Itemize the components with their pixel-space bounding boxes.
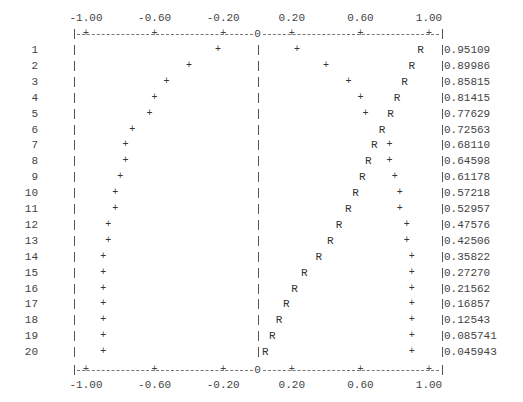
top-tick-label-0.20: 0.20 (279, 12, 305, 24)
lower-bound-marker: + (100, 283, 106, 295)
bottom-tick-label--1.00: -1.00 (69, 379, 102, 391)
right-border (442, 315, 443, 325)
correlation-value: 0.85815 (444, 76, 490, 88)
correlation-value: 0.42506 (444, 235, 490, 247)
left-border (74, 109, 75, 119)
bottom-axis-line-right (263, 370, 440, 371)
zero-line (258, 125, 259, 135)
zero-line (258, 315, 259, 325)
correlation-value: 0.085741 (444, 330, 497, 342)
upper-bound-marker: + (409, 251, 415, 263)
right-border (442, 284, 443, 294)
bottom-tick-label-1.00: 1.00 (416, 379, 442, 391)
left-border (74, 45, 75, 55)
correlation-value: 0.35822 (444, 251, 490, 263)
right-border (442, 156, 443, 166)
left-border (74, 188, 75, 198)
zero-line (258, 45, 259, 55)
upper-bound-marker: + (409, 330, 415, 342)
correlation-marker: R (291, 283, 298, 295)
lag-label: 14 (8, 251, 38, 263)
left-border (74, 172, 75, 182)
upper-bound-marker: + (409, 314, 415, 326)
correlation-value: 0.95109 (444, 44, 490, 56)
lag-label: 17 (8, 298, 38, 310)
lag-label: 20 (8, 346, 38, 358)
top-tick-label-0.60: 0.60 (347, 12, 373, 24)
left-border (74, 77, 75, 87)
left-border (74, 125, 75, 135)
upper-bound-marker: + (392, 171, 398, 183)
left-border (74, 236, 75, 246)
lag-label: 13 (8, 235, 38, 247)
right-border (442, 125, 443, 135)
lower-bound-marker: + (164, 76, 170, 88)
upper-bound-marker: + (357, 92, 363, 104)
bottom-tick-label--0.60: -0.60 (138, 379, 171, 391)
left-border (74, 299, 75, 309)
right-border (442, 45, 443, 55)
correlation-value: 0.12543 (444, 314, 490, 326)
upper-bound-marker: + (404, 235, 410, 247)
bottom-axis-zero-marker: 0 (254, 364, 261, 376)
right-border (442, 236, 443, 246)
correlation-value: 0.57218 (444, 187, 490, 199)
correlation-value: 0.68110 (444, 139, 490, 151)
correlation-marker: R (262, 346, 269, 358)
lag-label: 8 (8, 155, 38, 167)
bottom-axis-right-end (442, 365, 443, 375)
lower-bound-marker: + (122, 155, 128, 167)
upper-bound-marker: + (363, 108, 369, 120)
upper-bound-marker: + (397, 203, 403, 215)
lag-label: 15 (8, 267, 38, 279)
upper-bound-marker: + (397, 187, 403, 199)
correlation-marker: R (345, 203, 352, 215)
right-border (442, 268, 443, 278)
zero-line (258, 156, 259, 166)
correlation-value: 0.64598 (444, 155, 490, 167)
lag-label: 11 (8, 203, 38, 215)
right-border (442, 188, 443, 198)
correlation-value: 0.81415 (444, 92, 490, 104)
right-border (442, 61, 443, 71)
left-border (74, 93, 75, 103)
lag-label: 6 (8, 124, 38, 136)
right-border (442, 77, 443, 87)
correlation-marker: R (417, 44, 424, 56)
left-border (74, 284, 75, 294)
correlation-value: 0.045943 (444, 346, 497, 358)
zero-line (258, 284, 259, 294)
lag-label: 3 (8, 76, 38, 88)
lag-label: 19 (8, 330, 38, 342)
top-tick-label--0.20: -0.20 (207, 12, 240, 24)
top-axis-line-right (263, 34, 440, 35)
right-border (442, 331, 443, 341)
right-border (442, 109, 443, 119)
correlation-marker: R (359, 171, 366, 183)
upper-bound-marker: + (409, 267, 415, 279)
left-border (74, 61, 75, 71)
bottom-tick-label-0.20: 0.20 (279, 379, 305, 391)
correlation-marker: R (394, 92, 401, 104)
zero-line (258, 220, 259, 230)
bottom-axis-line-left (77, 370, 253, 371)
right-border (442, 140, 443, 150)
correlation-value: 0.27270 (444, 267, 490, 279)
lower-bound-marker: + (100, 251, 106, 263)
right-border (442, 299, 443, 309)
top-axis-line-left (77, 34, 253, 35)
lag-label: 16 (8, 283, 38, 295)
zero-line (258, 347, 259, 357)
bottom-tick-label--0.20: -0.20 (207, 379, 240, 391)
upper-bound-marker: + (294, 44, 300, 56)
correlation-value: 0.21562 (444, 283, 490, 295)
left-border (74, 331, 75, 341)
lower-bound-marker: + (105, 219, 111, 231)
right-border (442, 347, 443, 357)
lower-bound-marker: + (122, 139, 128, 151)
zero-line (258, 61, 259, 71)
lag-label: 12 (8, 219, 38, 231)
lower-bound-marker: + (186, 60, 192, 72)
correlation-marker: R (401, 76, 408, 88)
correlation-marker: R (283, 298, 290, 310)
